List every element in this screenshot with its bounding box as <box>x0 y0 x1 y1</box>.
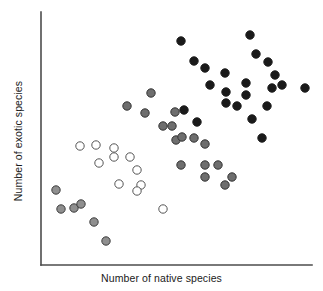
data-point-medium-gray <box>201 140 209 148</box>
data-point-open <box>133 166 141 174</box>
data-point-black <box>252 50 260 58</box>
data-point-open <box>159 205 167 213</box>
data-point-open <box>126 153 134 161</box>
data-point-medium-gray <box>159 122 167 130</box>
data-point-medium-gray <box>228 173 236 181</box>
data-point-medium-gray <box>190 134 198 142</box>
data-point-black <box>242 91 250 99</box>
data-point-medium-gray <box>141 109 149 117</box>
data-point-black <box>221 69 229 77</box>
data-point-open <box>110 153 118 161</box>
data-point-light-gray <box>102 237 110 245</box>
data-point-open <box>76 142 84 150</box>
data-point-black <box>201 64 209 72</box>
data-point-black <box>242 79 250 87</box>
data-point-black <box>206 81 214 89</box>
data-point-black <box>301 84 309 92</box>
data-point-black <box>180 106 188 114</box>
data-point-open <box>133 187 141 195</box>
data-point-light-gray <box>90 218 98 226</box>
data-point-medium-gray <box>177 161 185 169</box>
data-point-medium-gray <box>123 102 131 110</box>
data-point-light-gray <box>77 200 85 208</box>
data-point-black <box>278 81 286 89</box>
data-point-medium-gray <box>201 173 209 181</box>
data-point-light-gray <box>52 186 60 194</box>
data-point-medium-gray <box>221 181 229 189</box>
data-point-black <box>264 58 272 66</box>
data-point-black <box>248 115 256 123</box>
data-point-black <box>222 99 230 107</box>
data-point-medium-gray <box>171 108 179 116</box>
data-point-medium-gray <box>168 122 176 130</box>
data-point-black <box>263 102 271 110</box>
plot-canvas <box>0 0 323 291</box>
data-point-black <box>246 31 254 39</box>
data-point-medium-gray <box>214 161 222 169</box>
y-axis-label: Number of exotic species <box>12 31 24 251</box>
data-point-black <box>193 118 201 126</box>
data-point-black <box>271 71 279 79</box>
data-point-black <box>268 84 276 92</box>
data-point-open <box>95 159 103 167</box>
data-point-open <box>92 141 100 149</box>
data-point-black <box>233 102 241 110</box>
data-point-black <box>258 134 266 142</box>
data-point-medium-gray <box>147 89 155 97</box>
data-point-black <box>190 57 198 65</box>
data-point-black <box>222 88 230 96</box>
data-points <box>52 31 309 245</box>
scatter-plot-figure: Number of exotic species Number of nativ… <box>0 0 323 291</box>
data-point-open <box>110 144 118 152</box>
data-point-light-gray <box>57 205 65 213</box>
data-point-black <box>177 37 185 45</box>
x-axis-label: Number of native species <box>0 272 323 284</box>
data-point-open <box>115 180 123 188</box>
data-point-medium-gray <box>201 161 209 169</box>
data-point-medium-gray <box>178 133 186 141</box>
